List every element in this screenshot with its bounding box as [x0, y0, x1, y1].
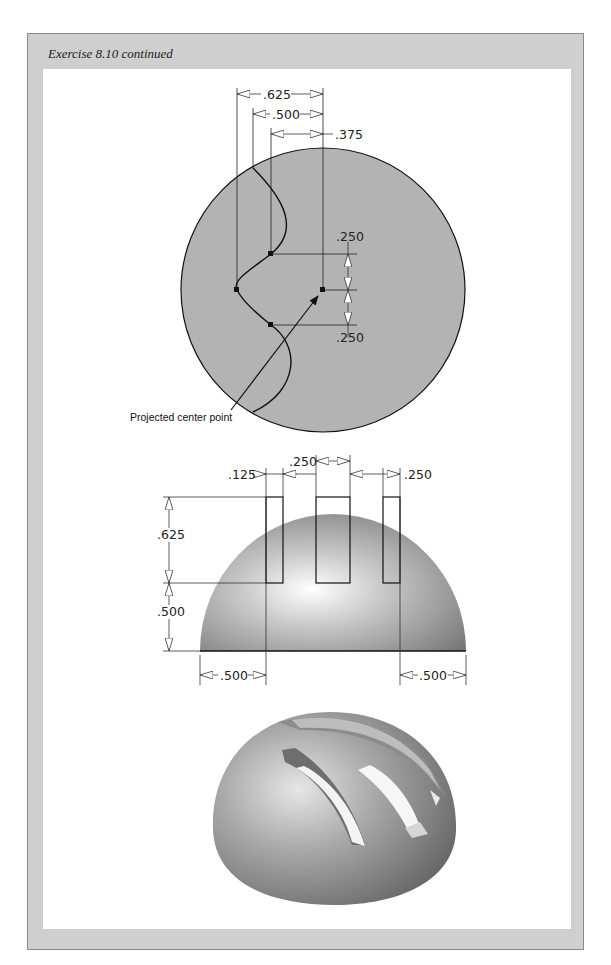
dim-250-lower: .250 — [336, 330, 364, 345]
dim-left-offset: .500 — [220, 668, 248, 683]
dim-250-upper: .250 — [336, 229, 364, 244]
dome-3d — [213, 712, 456, 905]
dim-slot-height: .625 — [157, 527, 185, 542]
dim-625: .625 — [263, 87, 291, 102]
dim-slot-width-right: .250 — [404, 467, 432, 482]
dim-500: .500 — [272, 107, 300, 122]
dim-base-height: .500 — [157, 604, 185, 619]
dim-right-offset: .500 — [419, 668, 447, 683]
callout-label: Projected center point — [130, 411, 232, 423]
drawing-canvas: .625 .500 .375 .250 .250 Projected cente… — [0, 0, 611, 965]
dim-slot-gap: .250 — [289, 454, 317, 469]
sketch-point — [268, 322, 273, 327]
dim-slot-width-left: .125 — [228, 467, 256, 482]
sketch-point — [268, 251, 273, 256]
sketch-point — [234, 287, 239, 292]
top-view-sketch: .625 .500 .375 .250 .250 Projected cente… — [130, 87, 465, 432]
isometric-view — [213, 712, 456, 905]
front-view: .250 .125 .250 .625 .500 .500 .500 — [156, 454, 466, 685]
dim-375: .375 — [335, 127, 363, 142]
center-point — [320, 287, 325, 292]
